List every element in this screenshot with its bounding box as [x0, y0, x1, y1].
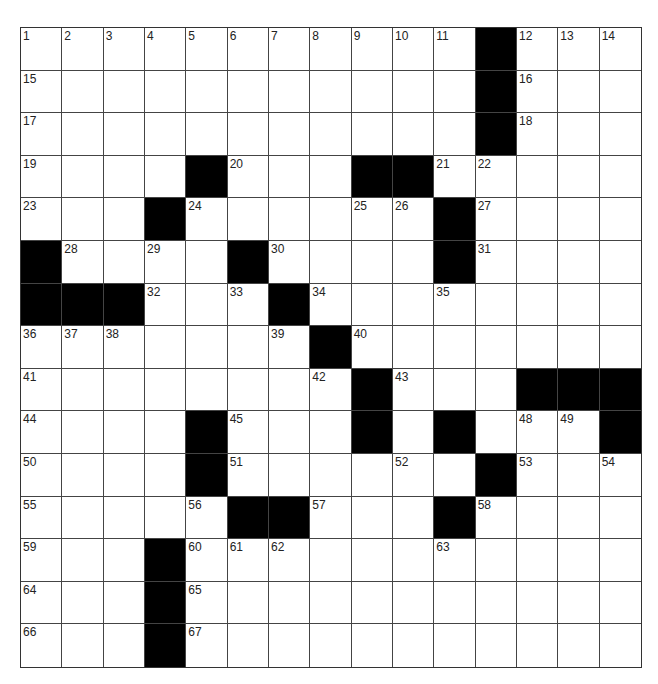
grid-cell[interactable]	[393, 539, 434, 582]
grid-cell[interactable]	[517, 284, 558, 327]
grid-cell[interactable]: 17	[21, 113, 62, 156]
grid-cell[interactable]: 12	[517, 28, 558, 71]
grid-cell[interactable]	[62, 198, 103, 241]
grid-cell[interactable]: 40	[352, 326, 393, 369]
grid-cell[interactable]	[558, 113, 599, 156]
grid-cell[interactable]	[352, 71, 393, 114]
grid-cell[interactable]	[393, 411, 434, 454]
grid-cell[interactable]	[558, 497, 599, 540]
grid-cell[interactable]: 61	[228, 539, 269, 582]
grid-cell[interactable]	[186, 369, 227, 412]
grid-cell[interactable]: 5	[186, 28, 227, 71]
grid-cell[interactable]	[393, 284, 434, 327]
grid-cell[interactable]: 6	[228, 28, 269, 71]
grid-cell[interactable]	[517, 582, 558, 625]
grid-cell[interactable]: 51	[228, 454, 269, 497]
grid-cell[interactable]	[352, 497, 393, 540]
grid-cell[interactable]	[62, 624, 103, 667]
grid-cell[interactable]	[600, 582, 641, 625]
grid-cell[interactable]: 63	[434, 539, 475, 582]
grid-cell[interactable]	[145, 71, 186, 114]
grid-cell[interactable]	[434, 71, 475, 114]
grid-cell[interactable]: 20	[228, 156, 269, 199]
grid-cell[interactable]: 4	[145, 28, 186, 71]
grid-cell[interactable]	[558, 624, 599, 667]
grid-cell[interactable]	[558, 326, 599, 369]
grid-cell[interactable]	[228, 624, 269, 667]
grid-cell[interactable]	[352, 624, 393, 667]
grid-cell[interactable]	[600, 497, 641, 540]
grid-cell[interactable]	[393, 71, 434, 114]
grid-cell[interactable]	[62, 582, 103, 625]
grid-cell[interactable]: 50	[21, 454, 62, 497]
grid-cell[interactable]	[62, 71, 103, 114]
grid-cell[interactable]	[600, 624, 641, 667]
grid-cell[interactable]	[558, 454, 599, 497]
grid-cell[interactable]	[186, 71, 227, 114]
grid-cell[interactable]	[145, 454, 186, 497]
grid-cell[interactable]	[393, 582, 434, 625]
grid-cell[interactable]: 37	[62, 326, 103, 369]
grid-cell[interactable]	[269, 198, 310, 241]
grid-cell[interactable]	[600, 71, 641, 114]
grid-cell[interactable]	[62, 156, 103, 199]
grid-cell[interactable]	[228, 582, 269, 625]
grid-cell[interactable]: 1	[21, 28, 62, 71]
grid-cell[interactable]	[145, 113, 186, 156]
grid-cell[interactable]	[517, 198, 558, 241]
grid-cell[interactable]	[104, 198, 145, 241]
grid-cell[interactable]	[393, 113, 434, 156]
grid-cell[interactable]: 2	[62, 28, 103, 71]
grid-cell[interactable]	[310, 411, 351, 454]
grid-cell[interactable]: 45	[228, 411, 269, 454]
grid-cell[interactable]: 3	[104, 28, 145, 71]
grid-cell[interactable]	[145, 369, 186, 412]
grid-cell[interactable]	[600, 241, 641, 284]
grid-cell[interactable]: 10	[393, 28, 434, 71]
grid-cell[interactable]	[558, 71, 599, 114]
grid-cell[interactable]: 22	[476, 156, 517, 199]
grid-cell[interactable]	[310, 198, 351, 241]
grid-cell[interactable]	[310, 71, 351, 114]
grid-cell[interactable]	[104, 241, 145, 284]
grid-cell[interactable]	[517, 624, 558, 667]
grid-cell[interactable]	[310, 624, 351, 667]
grid-cell[interactable]	[145, 326, 186, 369]
grid-cell[interactable]	[600, 156, 641, 199]
grid-cell[interactable]	[310, 156, 351, 199]
grid-cell[interactable]	[269, 156, 310, 199]
grid-cell[interactable]: 55	[21, 497, 62, 540]
grid-cell[interactable]: 60	[186, 539, 227, 582]
grid-cell[interactable]: 35	[434, 284, 475, 327]
grid-cell[interactable]	[600, 113, 641, 156]
grid-cell[interactable]	[600, 284, 641, 327]
grid-cell[interactable]: 34	[310, 284, 351, 327]
grid-cell[interactable]: 53	[517, 454, 558, 497]
grid-cell[interactable]	[434, 326, 475, 369]
grid-cell[interactable]	[517, 497, 558, 540]
grid-cell[interactable]	[476, 411, 517, 454]
grid-cell[interactable]	[352, 284, 393, 327]
grid-cell[interactable]	[517, 326, 558, 369]
grid-cell[interactable]	[186, 326, 227, 369]
grid-cell[interactable]	[476, 369, 517, 412]
grid-cell[interactable]: 57	[310, 497, 351, 540]
grid-cell[interactable]: 36	[21, 326, 62, 369]
grid-cell[interactable]	[434, 582, 475, 625]
grid-cell[interactable]	[558, 241, 599, 284]
grid-cell[interactable]: 67	[186, 624, 227, 667]
grid-cell[interactable]	[517, 241, 558, 284]
grid-cell[interactable]	[517, 156, 558, 199]
grid-cell[interactable]	[104, 411, 145, 454]
grid-cell[interactable]: 62	[269, 539, 310, 582]
grid-cell[interactable]	[228, 369, 269, 412]
grid-cell[interactable]: 15	[21, 71, 62, 114]
grid-cell[interactable]	[269, 71, 310, 114]
grid-cell[interactable]	[310, 113, 351, 156]
grid-cell[interactable]	[517, 539, 558, 582]
grid-cell[interactable]	[476, 326, 517, 369]
grid-cell[interactable]: 18	[517, 113, 558, 156]
grid-cell[interactable]	[269, 369, 310, 412]
grid-cell[interactable]	[393, 624, 434, 667]
grid-cell[interactable]	[145, 411, 186, 454]
